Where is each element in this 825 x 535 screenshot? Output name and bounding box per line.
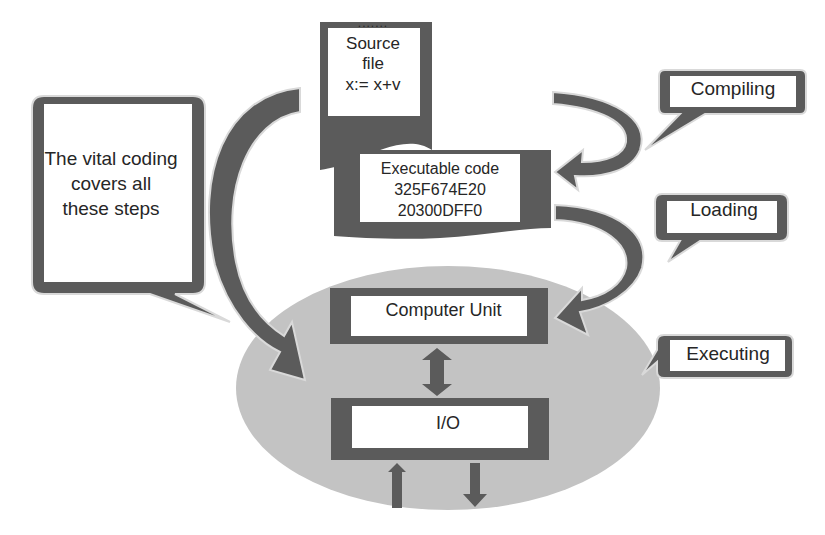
source-file-label: ....... Source file x:= x+v <box>327 18 419 95</box>
compile-arc-arrow <box>553 92 642 190</box>
computer-unit-label: Computer Unit <box>365 300 522 322</box>
source-file-line1: Source <box>327 34 419 54</box>
vital-line3: these steps <box>42 196 180 221</box>
executable-code-line1: 325F674E20 <box>360 179 520 200</box>
source-file-dots: ....... <box>327 18 419 28</box>
left-arc-arrow <box>209 88 305 380</box>
source-file-line2: file <box>327 54 419 74</box>
executable-code-title: Executable code <box>360 158 520 179</box>
vital-line2: covers all <box>42 171 180 196</box>
executing-label: Executing <box>672 343 784 366</box>
loading-label: Loading <box>668 199 780 222</box>
vital-callout-label: The vital coding covers all these steps <box>42 146 180 221</box>
io-label: I/O <box>378 413 518 435</box>
compiling-label: Compiling <box>677 78 789 101</box>
executable-code-line2: 20300DFF0 <box>360 200 520 221</box>
executable-code-label: Executable code 325F674E20 20300DFF0 <box>360 158 520 221</box>
vital-line1: The vital coding <box>42 146 180 171</box>
source-file-code: x:= x+v <box>327 75 419 95</box>
